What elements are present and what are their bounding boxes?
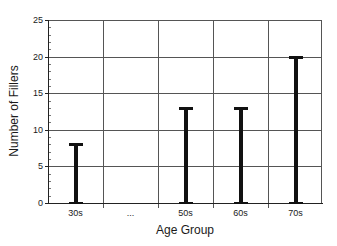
y-minor-tick <box>49 181 51 182</box>
y-minor-tick <box>49 64 51 65</box>
y-minor-tick <box>49 196 51 197</box>
y-tick-mark <box>45 130 49 131</box>
y-minor-tick <box>49 137 51 138</box>
v-gridline <box>213 20 214 208</box>
bar-foot <box>69 202 83 204</box>
y-tick-mark <box>45 20 49 21</box>
y-tick-mark <box>45 93 49 94</box>
x-axis-title: Age Group <box>48 223 322 237</box>
y-minor-tick <box>49 174 51 175</box>
y-minor-tick <box>49 27 51 28</box>
y-tick-label: 15 <box>19 88 43 98</box>
bar-50s <box>184 108 188 203</box>
x-tick-label: 60s <box>213 208 268 218</box>
y-minor-tick <box>49 115 51 116</box>
bar-foot <box>179 202 193 204</box>
x-tick-label: 70s <box>268 208 323 218</box>
y-tick-label: 0 <box>19 198 43 208</box>
y-minor-tick <box>49 79 51 80</box>
h-gridline <box>48 93 322 94</box>
y-minor-tick <box>49 35 51 36</box>
y-minor-tick <box>49 42 51 43</box>
v-gridline <box>158 20 159 208</box>
y-minor-tick <box>49 144 51 145</box>
y-tick-label: 25 <box>19 15 43 25</box>
bar-30s <box>74 144 78 203</box>
y-minor-tick <box>49 152 51 153</box>
y-minor-tick <box>49 122 51 123</box>
y-minor-tick <box>49 108 51 109</box>
h-gridline <box>48 57 322 58</box>
v-gridline <box>103 20 104 208</box>
y-tick-label: 5 <box>19 161 43 171</box>
bar-70s <box>294 57 298 203</box>
y-tick-mark <box>45 57 49 58</box>
y-tick-label: 10 <box>19 125 43 135</box>
bar-foot <box>289 202 303 204</box>
bar-60s <box>239 108 243 203</box>
bar-chart: 0510152025 30s...50s60s70s Age Group Num… <box>0 0 337 246</box>
x-tick-label: 30s <box>48 208 103 218</box>
y-minor-tick <box>49 49 51 50</box>
x-tick-label: 50s <box>158 208 213 218</box>
bar-cap <box>179 107 193 110</box>
y-axis-line <box>48 20 49 204</box>
y-minor-tick <box>49 188 51 189</box>
bar-foot <box>234 202 248 204</box>
y-minor-tick <box>49 101 51 102</box>
bar-cap <box>234 107 248 110</box>
y-tick-mark <box>45 203 49 204</box>
x-tick-label: ... <box>103 208 158 218</box>
y-tick-label: 20 <box>19 52 43 62</box>
v-gridline <box>268 20 269 208</box>
y-tick-mark <box>45 166 49 167</box>
y-minor-tick <box>49 159 51 160</box>
bar-cap <box>289 56 303 59</box>
y-axis-title: Number of Fillers <box>7 65 21 156</box>
y-minor-tick <box>49 71 51 72</box>
y-minor-tick <box>49 86 51 87</box>
bar-cap <box>69 143 83 146</box>
